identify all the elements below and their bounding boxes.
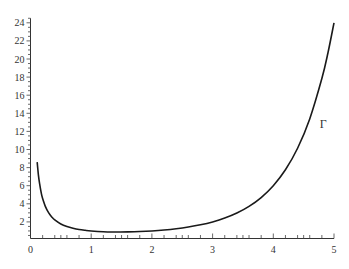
y-tick-label: 10: [15, 144, 25, 155]
y-tick-label: 24: [15, 17, 25, 28]
y-tick-label: 22: [15, 35, 25, 46]
x-tick-label: 0: [28, 244, 33, 255]
y-tick-label: 16: [15, 90, 25, 101]
gamma-curve: [37, 23, 334, 232]
y-tick-label: 20: [15, 54, 25, 65]
y-axis: 24681012141618202224: [15, 17, 31, 238]
x-tick-label: 4: [271, 244, 276, 255]
y-tick-label: 4: [20, 198, 25, 209]
y-tick-label: 14: [15, 108, 25, 119]
x-axis: 012345: [28, 234, 337, 255]
x-tick-label: 3: [210, 244, 215, 255]
x-tick-label: 5: [332, 244, 337, 255]
gamma-function-chart: 24681012141618202224 012345 Γ: [0, 0, 349, 269]
y-tick-label: 12: [15, 126, 25, 137]
y-tick-label: 2: [20, 216, 25, 227]
x-tick-label: 1: [89, 244, 94, 255]
y-tick-label: 6: [20, 180, 25, 191]
y-tick-label: 18: [15, 72, 25, 83]
curve-label: Γ: [320, 117, 327, 131]
x-tick-label: 2: [149, 244, 154, 255]
y-tick-label: 8: [20, 162, 25, 173]
